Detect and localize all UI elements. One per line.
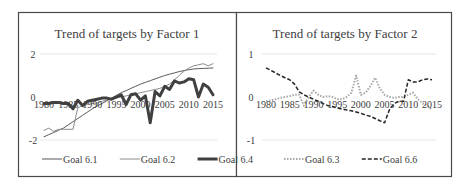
y-tick-label: 0 (249, 92, 254, 103)
figure: Trend of targets by Factor 1 20-2 198019… (0, 0, 467, 189)
y-tick-label: 1 (249, 49, 254, 60)
x-tick-label: 1980 (256, 99, 276, 110)
x-tick-label: 1995 (327, 99, 347, 110)
x-tick-label: 2000 (351, 99, 371, 110)
chart-1-title: Trend of targets by Factor 1 (55, 26, 200, 41)
y-tick-label: 2 (31, 49, 36, 60)
x-tick-label: 1990 (303, 99, 323, 110)
legend-label: Goal 6.3 (305, 154, 339, 165)
x-tick-label: 1985 (280, 99, 300, 110)
legend-label: Goal 6.1 (63, 154, 97, 165)
x-tick-label: 1990 (82, 99, 102, 110)
x-tick-label: 1985 (58, 99, 78, 110)
x-tick-label: 1995 (106, 99, 126, 110)
x-tick-label: 2010 (398, 99, 418, 110)
x-tick-label: 2005 (375, 99, 395, 110)
legend-label: Goal 6.2 (141, 154, 175, 165)
chart-canvas: Trend of targets by Factor 1 20-2 198019… (0, 0, 467, 189)
chart-1-legend: Goal 6.1Goal 6.2Goal 6.4 (42, 154, 253, 165)
y-tick-label: -2 (29, 135, 37, 146)
legend-label: Goal 6.4 (219, 154, 253, 165)
x-tick-label: 1980 (34, 99, 54, 110)
chart-2-title: Trend of targets by Factor 2 (273, 26, 418, 41)
y-tick-label: -1 (247, 135, 255, 146)
x-tick-label: 2000 (131, 99, 151, 110)
x-tick-label: 2015 (203, 99, 223, 110)
x-tick-label: 2010 (179, 99, 199, 110)
x-tick-label: 2005 (155, 99, 175, 110)
x-tick-label: 2015 (422, 99, 442, 110)
legend-label: Goal 6.6 (383, 154, 417, 165)
